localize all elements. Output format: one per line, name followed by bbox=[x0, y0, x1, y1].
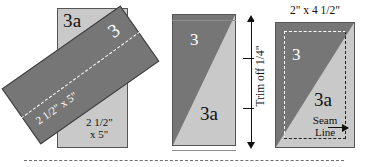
finished-dark-piece-label: 3 bbox=[292, 45, 301, 65]
finished-unit-block: 3 3a Seam Line bbox=[275, 22, 355, 148]
step-3-finished-panel: 2" x 4 1/2" 3 3a Seam Line bbox=[272, 0, 358, 160]
arrowhead-down-icon bbox=[247, 142, 255, 149]
step-1-place-panel: 3a 2 1/2" x 5" 3 2 1/2" x 5" bbox=[0, 0, 160, 160]
base-piece-label: 3a bbox=[63, 10, 81, 32]
finished-light-piece-label: 3a bbox=[314, 89, 332, 111]
trim-dark-piece-label: 3 bbox=[190, 30, 199, 50]
strip-piece-label: 3 bbox=[104, 19, 124, 42]
diagram-canvas: 3a 2 1/2" x 5" 3 2 1/2" x 5" 3 3a Trim o… bbox=[0, 0, 366, 167]
strip-piece-size-label: 2 1/2" x 5" bbox=[33, 89, 79, 126]
trim-light-piece-label: 3a bbox=[200, 103, 218, 125]
trim-unit-block: 3 3a bbox=[172, 14, 236, 146]
base-piece-size-label: 2 1/2" x 5" bbox=[86, 116, 146, 140]
base-size-line-1: 2 1/2" bbox=[86, 116, 146, 128]
trim-guide-line-top bbox=[172, 20, 236, 21]
seam-line-pointer-arrow-icon bbox=[328, 127, 348, 128]
base-size-line-2: x 5" bbox=[90, 128, 146, 140]
dark-triangle-3 bbox=[173, 15, 235, 145]
step-2-trim-panel: 3 3a bbox=[172, 0, 236, 160]
trim-dimension-arrow: Trim off 1/4" bbox=[241, 16, 263, 148]
trim-dimension-label: Trim off 1/4" bbox=[254, 21, 266, 131]
finished-unit-size-label: 2" x 4 1/2" bbox=[272, 4, 358, 16]
dimension-line bbox=[251, 18, 252, 146]
trim-guide-line-bottom bbox=[172, 150, 236, 151]
footer-divider bbox=[24, 160, 344, 161]
